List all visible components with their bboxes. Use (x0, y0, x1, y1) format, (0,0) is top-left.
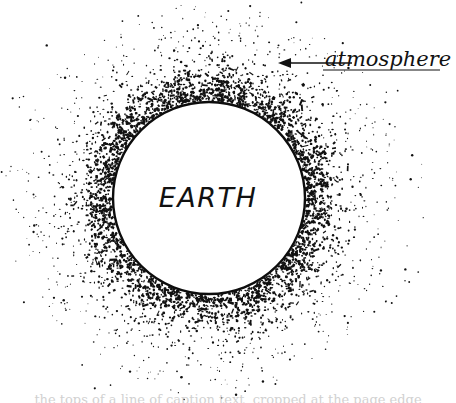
figure-root: EARTH atmosphere the tops of a line of c… (0, 0, 456, 403)
earth-atmosphere-diagram: EARTH atmosphere (0, 0, 456, 403)
earth-label: EARTH (159, 182, 258, 213)
atmosphere-label: atmosphere (325, 47, 451, 71)
